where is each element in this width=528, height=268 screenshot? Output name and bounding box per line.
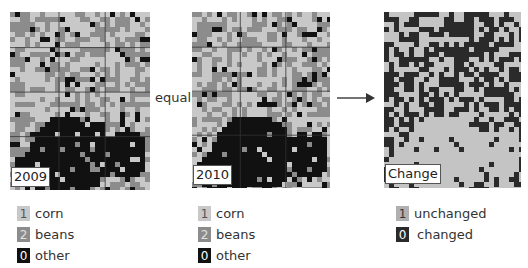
raster-change: Change bbox=[384, 12, 521, 188]
legend-swatch: 0 bbox=[396, 227, 409, 242]
legend-label: beans bbox=[216, 227, 255, 242]
equal-operator-label: equal bbox=[155, 90, 191, 105]
legend-swatch: 2 bbox=[17, 227, 30, 242]
legend-item-other: 0 other bbox=[198, 245, 255, 266]
legend-change: 1 unchanged 0 changed bbox=[396, 203, 487, 245]
change-map bbox=[384, 12, 521, 188]
legend-2010: 1 corn 2 beans 0 other bbox=[198, 203, 255, 266]
legend-swatch: 2 bbox=[198, 227, 211, 242]
panel-label-2009: 2009 bbox=[11, 167, 50, 187]
land-cover-map-2009 bbox=[10, 12, 150, 190]
legend-label: other bbox=[216, 248, 251, 263]
legend-swatch: 0 bbox=[17, 248, 30, 263]
legend-item-other: 0 other bbox=[17, 245, 74, 266]
legend-label: corn bbox=[216, 206, 244, 221]
legend-item-corn: 1 corn bbox=[17, 203, 74, 224]
legend-swatch: 1 bbox=[17, 206, 30, 221]
legend-item-beans: 2 beans bbox=[17, 224, 74, 245]
panel-label-change: Change bbox=[385, 164, 441, 184]
legend-label: corn bbox=[35, 206, 63, 221]
legend-label: unchanged bbox=[414, 206, 487, 221]
legend-item-unchanged: 1 unchanged bbox=[396, 203, 487, 224]
right-arrow-icon bbox=[336, 92, 376, 104]
land-cover-map-2010 bbox=[192, 12, 330, 188]
legend-label: beans bbox=[35, 227, 74, 242]
legend-item-beans: 2 beans bbox=[198, 224, 255, 245]
legend-label: other bbox=[35, 248, 70, 263]
legend-label: changed bbox=[417, 227, 473, 242]
legend-item-changed: 0 changed bbox=[396, 224, 487, 245]
legend-swatch: 1 bbox=[198, 206, 211, 221]
legend-item-corn: 1 corn bbox=[198, 203, 255, 224]
raster-2009: 2009 bbox=[10, 12, 150, 190]
legend-swatch: 1 bbox=[396, 206, 409, 221]
panel-label-2010: 2010 bbox=[193, 165, 232, 185]
legend-2009: 1 corn 2 beans 0 other bbox=[17, 203, 74, 266]
legend-swatch: 0 bbox=[198, 248, 211, 263]
raster-2010: 2010 bbox=[192, 12, 330, 188]
